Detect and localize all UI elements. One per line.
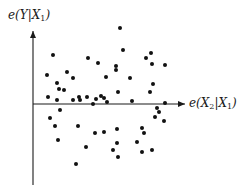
data-point bbox=[114, 64, 118, 68]
data-point bbox=[71, 76, 75, 80]
data-point bbox=[150, 62, 154, 66]
data-point bbox=[111, 148, 115, 152]
data-point bbox=[71, 98, 75, 102]
data-point bbox=[163, 63, 167, 67]
data-point bbox=[51, 53, 55, 57]
scatter-plot bbox=[0, 0, 252, 188]
data-point bbox=[149, 51, 153, 55]
data-point bbox=[162, 119, 166, 123]
data-point bbox=[128, 76, 132, 80]
data-point bbox=[116, 90, 120, 94]
data-point bbox=[93, 131, 97, 135]
data-point bbox=[104, 75, 108, 79]
data-point bbox=[115, 127, 119, 131]
data-point bbox=[121, 48, 125, 52]
data-point bbox=[105, 100, 109, 104]
data-point bbox=[78, 98, 82, 102]
data-point bbox=[151, 82, 155, 86]
data-point bbox=[62, 88, 66, 92]
data-point bbox=[102, 130, 106, 134]
data-points bbox=[45, 26, 167, 166]
data-point bbox=[150, 148, 154, 152]
data-point bbox=[144, 56, 148, 60]
data-point bbox=[157, 110, 161, 114]
data-point bbox=[46, 95, 50, 99]
data-point bbox=[148, 90, 152, 94]
data-point bbox=[155, 106, 159, 110]
data-point bbox=[115, 141, 119, 145]
data-point bbox=[86, 56, 90, 60]
data-point bbox=[74, 162, 78, 166]
data-point bbox=[53, 124, 57, 128]
data-point bbox=[55, 98, 59, 102]
data-point bbox=[140, 150, 144, 154]
data-point bbox=[55, 81, 59, 85]
x-axis-label: e(X2|X1) bbox=[189, 97, 237, 111]
data-point bbox=[45, 73, 49, 77]
data-point bbox=[142, 131, 146, 135]
data-point bbox=[56, 138, 60, 142]
data-point bbox=[130, 99, 134, 103]
data-point bbox=[163, 101, 167, 105]
data-point bbox=[94, 97, 98, 101]
data-point bbox=[153, 115, 157, 119]
data-point bbox=[102, 96, 106, 100]
data-point bbox=[96, 61, 100, 65]
data-point bbox=[91, 102, 95, 106]
data-point bbox=[48, 116, 52, 120]
data-point bbox=[84, 145, 88, 149]
data-point bbox=[76, 124, 80, 128]
data-point bbox=[85, 95, 89, 99]
data-point bbox=[58, 108, 62, 112]
data-point bbox=[116, 155, 120, 159]
data-point bbox=[118, 26, 122, 30]
data-point bbox=[57, 87, 61, 91]
y-axis-label: e(Y|X1) bbox=[8, 9, 50, 23]
data-point bbox=[65, 70, 69, 74]
data-point bbox=[140, 126, 144, 130]
data-point bbox=[135, 140, 139, 144]
data-point bbox=[114, 68, 118, 72]
